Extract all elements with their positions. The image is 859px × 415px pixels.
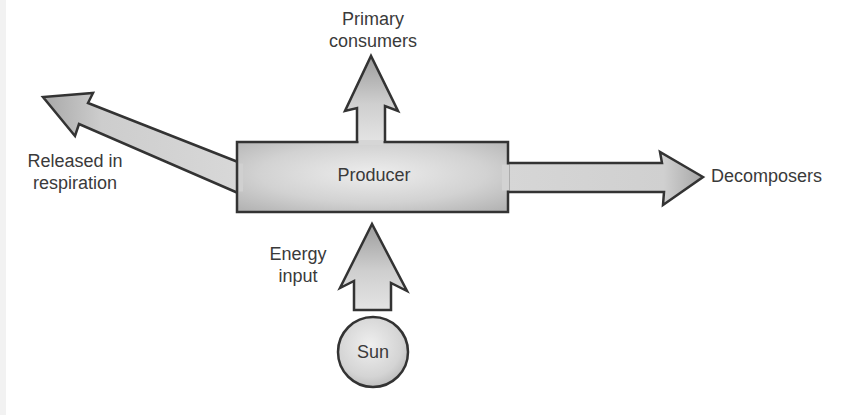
sun-label: Sun bbox=[343, 341, 403, 363]
label-primary-consumers: Primary consumers bbox=[318, 8, 428, 52]
label-energy-line1: Energy bbox=[258, 243, 338, 265]
label-released-in-respiration: Released in respiration bbox=[16, 150, 134, 194]
label-released-line1: Released in bbox=[16, 150, 134, 172]
label-energy-line2: input bbox=[258, 265, 338, 287]
label-primary-consumers-line1: Primary bbox=[318, 8, 428, 30]
label-decomposers: Decomposers bbox=[711, 165, 822, 187]
label-energy-input: Energy input bbox=[258, 243, 338, 287]
label-primary-consumers-line2: consumers bbox=[318, 30, 428, 52]
energy-flow-diagram: Primary consumers Released in respiratio… bbox=[0, 0, 859, 415]
producer-label: Producer bbox=[322, 164, 426, 186]
diagram-canvas bbox=[0, 0, 859, 415]
label-released-line2: respiration bbox=[16, 172, 134, 194]
arrow-to-primary-consumers bbox=[345, 56, 398, 143]
arrow-to-decomposers bbox=[507, 152, 703, 205]
arrow-energy-input bbox=[340, 224, 407, 310]
